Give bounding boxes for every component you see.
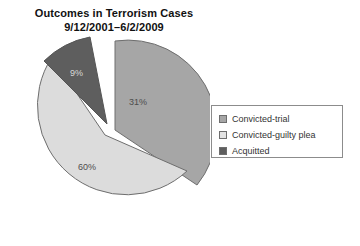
pie-chart: 31% 60% 9% Convicted-trial Convicted-gui… — [0, 0, 360, 246]
legend-item-convicted-guilty-plea[interactable]: Convicted-guilty plea — [219, 127, 342, 142]
pie-chart-svg — [14, 34, 210, 226]
legend-item-label: Acquitted — [232, 146, 270, 156]
chart-legend: Convicted-trial Convicted-guilty plea Ac… — [211, 105, 343, 158]
legend-item-label: Convicted-guilty plea — [232, 130, 316, 140]
legend-item-label: Convicted-trial — [232, 114, 290, 124]
legend-swatch-icon — [219, 147, 227, 155]
pie-slice-label-convicted-trial: 31% — [129, 97, 147, 107]
legend-item-convicted-trial[interactable]: Convicted-trial — [219, 111, 342, 126]
pie-slice-label-convicted-guilty-plea: 60% — [78, 162, 96, 172]
pie-slice-label-acquitted: 9% — [70, 68, 83, 78]
legend-item-acquitted[interactable]: Acquitted — [219, 143, 342, 158]
legend-swatch-icon — [219, 131, 227, 139]
legend-swatch-icon — [219, 115, 227, 123]
